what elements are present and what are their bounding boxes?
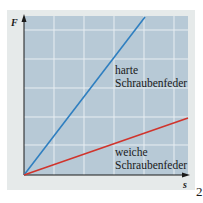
- soft-spring-label: weiche Schraubenfeder: [115, 146, 187, 172]
- y-axis-label: F: [11, 17, 18, 28]
- x-axis-label: s: [183, 179, 187, 190]
- x-axis-arrow-icon: [182, 173, 190, 178]
- y-axis-arrow-icon: [22, 14, 27, 22]
- hard-spring-label: harte Schraubenfeder: [115, 64, 187, 90]
- hard-spring-label-line1: harte: [115, 64, 187, 77]
- figure-number: 2: [196, 184, 203, 200]
- chart-svg: [0, 0, 203, 203]
- soft-spring-label-line2: Schraubenfeder: [115, 159, 187, 172]
- soft-spring-label-line1: weiche: [115, 146, 187, 159]
- hard-spring-label-line2: Schraubenfeder: [115, 77, 187, 90]
